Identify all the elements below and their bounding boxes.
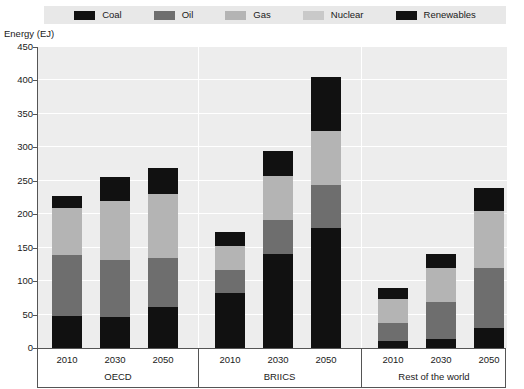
group-separator-gridline <box>198 47 199 348</box>
stacked-bar[interactable] <box>474 188 504 349</box>
group-separator-gridline <box>361 47 362 348</box>
bar-segment-coal <box>148 307 178 348</box>
legend-item-renewables: Renewables <box>396 10 476 20</box>
bar-segment-coal <box>474 328 504 348</box>
gridline-horizontal <box>38 146 507 147</box>
gridline-horizontal <box>38 46 507 47</box>
x-axis-tick-label: 2030 <box>95 354 135 365</box>
stacked-bar[interactable] <box>100 177 130 348</box>
bar-segment-oil <box>52 255 82 316</box>
x-axis-tick-label: 2050 <box>143 354 183 365</box>
y-axis-tick-mark <box>33 147 37 148</box>
bar-segment-gas <box>378 299 408 322</box>
bar-segment-gas <box>100 201 130 260</box>
legend-label-renewables: Renewables <box>424 10 476 20</box>
bar-segment-gas <box>426 268 456 301</box>
y-axis-tick-label: 250 <box>3 176 33 186</box>
bar-segment-coal <box>311 228 341 348</box>
x-axis-group-label: Rest of the world <box>361 371 507 382</box>
legend-item-coal: Coal <box>74 10 122 20</box>
y-axis-tick-label: 150 <box>3 243 33 253</box>
legend-item-gas: Gas <box>225 10 270 20</box>
legend-swatch-gas <box>225 11 246 20</box>
x-axis-tick-label: 2050 <box>306 354 346 365</box>
bar-segment-oil <box>263 220 293 253</box>
legend-swatch-oil <box>154 11 175 20</box>
bar-segment-oil <box>148 258 178 307</box>
y-axis-tick-mark <box>33 248 37 249</box>
bar-segment-oil <box>100 260 130 317</box>
bar-segment-oil <box>378 323 408 342</box>
stacked-bar[interactable] <box>378 288 408 348</box>
y-axis-tick-label: 350 <box>3 109 33 119</box>
legend-swatch-nuclear <box>303 11 324 20</box>
y-axis-tick-mark <box>33 47 37 48</box>
legend-item-nuclear: Nuclear <box>303 10 364 20</box>
bar-segment-renewables <box>426 254 456 268</box>
bar-segment-renewables <box>100 177 130 200</box>
x-axis-tick-label: 2010 <box>210 354 250 365</box>
x-axis-tick-label: 2030 <box>258 354 298 365</box>
bar-segment-oil <box>311 185 341 228</box>
stacked-bar[interactable] <box>215 232 245 348</box>
stacked-bar[interactable] <box>426 254 456 348</box>
y-axis-tick-label: 200 <box>3 209 33 219</box>
bar-segment-renewables <box>52 196 82 208</box>
bar-segment-coal <box>378 341 408 348</box>
legend-label-oil: Oil <box>182 10 194 20</box>
plot-area <box>37 47 507 348</box>
x-axis-tick-label: 2010 <box>373 354 413 365</box>
y-axis-tick-label: 100 <box>3 276 33 286</box>
bar-segment-gas <box>474 211 504 268</box>
bar-segment-renewables <box>311 77 341 131</box>
bar-segment-oil <box>474 268 504 328</box>
bar-segment-renewables <box>148 168 178 193</box>
x-axis-band: 201020302050OECD201020302050BRIICS201020… <box>37 349 506 388</box>
x-axis-group-label: OECD <box>38 371 198 382</box>
legend-label-gas: Gas <box>253 10 270 20</box>
y-axis-tick-label: 300 <box>3 142 33 152</box>
bar-segment-coal <box>52 316 82 348</box>
stacked-bar[interactable] <box>52 196 82 348</box>
y-axis-tick-mark <box>33 181 37 182</box>
gridline-horizontal <box>38 79 507 80</box>
bar-segment-gas <box>215 246 245 270</box>
bar-segment-gas <box>263 176 293 220</box>
bar-segment-oil <box>215 270 245 293</box>
legend-item-oil: Oil <box>154 10 194 20</box>
y-axis-tick-mark <box>33 214 37 215</box>
bar-segment-gas <box>52 208 82 255</box>
legend-swatch-coal <box>74 11 95 20</box>
y-axis-tick-label: 400 <box>3 75 33 85</box>
bar-segment-coal <box>100 317 130 348</box>
stacked-bar[interactable] <box>311 77 341 348</box>
bar-segment-coal <box>263 254 293 348</box>
x-axis-group-label: BRIICS <box>198 371 361 382</box>
x-axis-tick-label: 2010 <box>47 354 87 365</box>
x-axis-tick-label: 2030 <box>421 354 461 365</box>
bar-segment-renewables <box>474 188 504 211</box>
bar-segment-oil <box>426 302 456 339</box>
y-axis-tick-mark <box>33 281 37 282</box>
stacked-bar[interactable] <box>263 151 293 348</box>
y-axis-title: Energy (EJ) <box>4 28 54 39</box>
legend-swatch-renewables <box>396 11 417 20</box>
bar-segment-coal <box>426 339 456 348</box>
legend-label-coal: Coal <box>102 10 122 20</box>
legend-label-nuclear: Nuclear <box>331 10 364 20</box>
y-axis-tick-label: 450 <box>3 42 33 52</box>
bar-segment-gas <box>148 194 178 258</box>
y-axis-tick-mark <box>33 315 37 316</box>
bar-segment-gas <box>311 131 341 185</box>
bar-segment-renewables <box>263 151 293 176</box>
stacked-bar[interactable] <box>148 168 178 348</box>
bar-segment-coal <box>215 293 245 348</box>
y-axis-tick-mark <box>33 114 37 115</box>
y-axis-tick-mark <box>33 80 37 81</box>
chart-legend: Coal Oil Gas Nuclear Renewables <box>44 6 506 24</box>
bar-segment-renewables <box>215 232 245 246</box>
bar-segment-renewables <box>378 288 408 299</box>
gridline-horizontal <box>38 113 507 114</box>
y-axis-tick-label: 50 <box>3 310 33 320</box>
y-axis-tick-label: 0 <box>3 343 33 353</box>
